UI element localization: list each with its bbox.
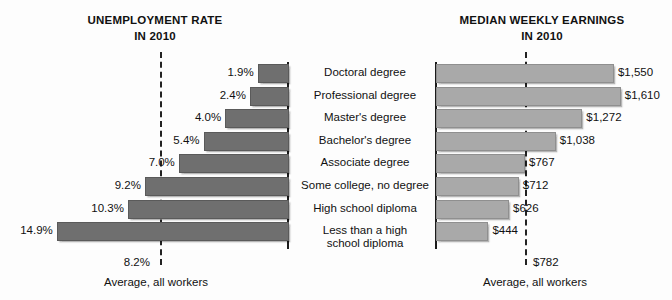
earnings-value-label: $1,550 [618, 64, 653, 81]
earnings-value-label: $444 [492, 222, 518, 239]
unemployment-value-label: 9.2% [83, 177, 141, 194]
unemployment-value-label: 2.4% [188, 87, 246, 104]
earnings-bar [436, 109, 582, 128]
unemployment-bar [128, 200, 289, 219]
category-label: Bachelor's degree [290, 134, 440, 147]
earnings-value-label: $712 [523, 177, 549, 194]
unemployment-chart: 1.9%2.4%4.0%5.4%7.0%9.2%10.3%14.9% 8.2% … [0, 0, 300, 300]
earnings-value-label: $1,610 [625, 87, 660, 104]
earnings-bar [436, 177, 519, 196]
earnings-average-value: $782 [533, 256, 593, 268]
earnings-bar [436, 154, 525, 173]
earnings-value-label: $1,272 [586, 109, 621, 126]
category-label-line1: Professional degree [314, 89, 416, 101]
unemployment-value-label: 4.0% [163, 109, 221, 126]
earnings-chart: $1,550$1,610$1,272$1,038$767$712$626$444… [430, 0, 672, 300]
unemployment-value-label: 10.3% [66, 200, 124, 217]
unemployment-bar [204, 132, 289, 151]
earnings-bar [436, 64, 614, 83]
category-label-column: Doctoral degreeProfessional degreeMaster… [290, 0, 440, 300]
earnings-bar [436, 222, 488, 241]
earnings-bar [436, 132, 556, 151]
category-label: Less than a highschool diploma [290, 224, 440, 250]
unemployment-bar [258, 64, 289, 83]
category-label: Professional degree [290, 89, 440, 102]
earnings-average-caption: Average, all workers [430, 276, 640, 288]
earnings-value-label: $1,038 [560, 132, 595, 149]
category-label: Master's degree [290, 111, 440, 124]
earnings-bar [436, 200, 509, 219]
category-label: High school diploma [290, 202, 440, 215]
category-label-line1: High school diploma [313, 202, 417, 214]
category-label-line1: Master's degree [324, 111, 406, 123]
unemployment-bar [57, 222, 289, 241]
unemployment-average-caption: Average, all workers [56, 276, 256, 288]
category-label: Doctoral degree [290, 66, 440, 79]
category-label: Some college, no degree [290, 179, 440, 192]
unemployment-value-label: 1.9% [196, 64, 254, 81]
unemployment-value-label: 7.0% [117, 154, 175, 171]
unemployment-value-label: 5.4% [142, 132, 200, 149]
earnings-bar [436, 87, 621, 106]
earnings-value-label: $767 [529, 154, 555, 171]
unemployment-bar [145, 177, 289, 196]
earnings-value-label: $626 [513, 200, 539, 217]
earnings-average-dashed-line [525, 52, 527, 265]
unemployment-bar [179, 154, 289, 173]
unemployment-value-label: 14.9% [0, 222, 53, 239]
unemployment-bar [250, 87, 289, 106]
category-label: Associate degree [290, 156, 440, 169]
category-label-line1: Bachelor's degree [319, 134, 411, 146]
category-label-line1: Associate degree [321, 156, 410, 168]
unemployment-average-value: 8.2% [100, 256, 150, 268]
category-label-line2: school diploma [290, 237, 440, 250]
category-label-line1: Doctoral degree [324, 66, 406, 78]
unemployment-bar [225, 109, 289, 128]
infographic-root: UNEMPLOYMENT RATE IN 2010 MEDIAN WEEKLY … [0, 0, 672, 300]
category-label-line1: Some college, no degree [301, 179, 429, 191]
category-label-line1: Less than a high [323, 224, 407, 236]
